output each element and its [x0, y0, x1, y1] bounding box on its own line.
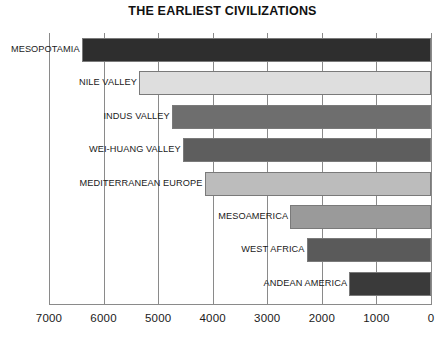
plot-area: [49, 33, 432, 305]
bar-mediterranean-europe[interactable]: [205, 172, 431, 196]
category-label-nile-valley: NILE VALLEY: [0, 78, 137, 87]
x-tick-label-6000: 6000: [74, 312, 134, 324]
x-tick-label-5000: 5000: [128, 312, 188, 324]
bar-andean-america[interactable]: [349, 272, 431, 296]
category-label-wei-huang-valley: WEI-HUANG VALLEY: [0, 145, 181, 154]
bar-nile-valley[interactable]: [139, 71, 431, 95]
bar-row: [49, 38, 432, 62]
bar-indus-valley[interactable]: [172, 105, 431, 129]
category-label-mediterranean-europe: MEDITERRANEAN EUROPE: [0, 179, 203, 188]
category-label-mesoamerica: MESOAMERICA: [0, 212, 288, 221]
x-tick-label-7000: 7000: [19, 312, 79, 324]
bar-west-africa[interactable]: [307, 238, 431, 262]
category-label-andean-america: ANDEAN AMERICA: [0, 279, 347, 288]
x-tick-label-2000: 2000: [292, 312, 352, 324]
x-axis-line: [49, 304, 432, 305]
bar-mesopotamia[interactable]: [82, 38, 431, 62]
x-tick-label-1000: 1000: [346, 312, 406, 324]
chart-container: THE EARLIEST CIVILIZATIONS MESOPOTAMIANI…: [0, 0, 445, 353]
category-label-mesopotamia: MESOPOTAMIA: [0, 45, 80, 54]
x-tick-label-4000: 4000: [183, 312, 243, 324]
x-tick-label-3000: 3000: [237, 312, 297, 324]
category-label-indus-valley: INDUS VALLEY: [0, 112, 170, 121]
x-tick-label-0: 0: [401, 312, 445, 324]
bar-mesoamerica[interactable]: [290, 205, 431, 229]
category-label-west-africa: WEST AFRICA: [0, 245, 305, 254]
bar-wei-huang-valley[interactable]: [183, 138, 431, 162]
chart-title: THE EARLIEST CIVILIZATIONS: [0, 4, 445, 18]
